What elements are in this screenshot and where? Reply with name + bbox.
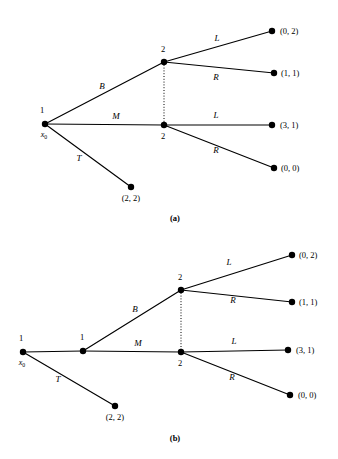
game-tree-diagram-a: 1x022BMTLRLR(0, 2)(1, 1)(3, 1)(0, 0)(2, … (0, 0, 338, 230)
panel-caption-b: (b) (170, 433, 181, 443)
node-terminal-31 (269, 122, 275, 128)
node-terminal-02 (289, 252, 295, 258)
player-label-root: 1 (19, 333, 23, 343)
action-label-L-lower: L (230, 336, 236, 346)
payoff-1-1: (1, 1) (299, 297, 318, 307)
edge-B (45, 62, 164, 124)
edge-lower-R (164, 125, 274, 168)
edge-T (45, 124, 131, 187)
player-label-p2-lower: 2 (178, 358, 182, 368)
action-label-B: B (99, 81, 105, 91)
payoff-0-0: (0, 0) (298, 390, 317, 400)
payoff-1-1: (1, 1) (281, 68, 300, 78)
action-label-R-upper: R (212, 72, 219, 82)
node-terminal-22 (112, 403, 118, 409)
payoff-2-2: (2, 2) (106, 412, 125, 422)
edge-lower-R (181, 352, 290, 395)
node-terminal-00 (271, 165, 277, 171)
payoff-0-0: (0, 0) (281, 163, 300, 173)
game-tree-diagram-b: 1x0122BMTLRLR(0, 2)(1, 1)(3, 1)(0, 0)(2,… (0, 230, 338, 459)
node-p1-second (80, 348, 86, 354)
game-tree-figure: 1x022BMTLRLR(0, 2)(1, 1)(3, 1)(0, 0)(2, … (0, 0, 338, 459)
action-label-M: M (133, 338, 142, 348)
game-tree-panel-a: 1x022BMTLRLR(0, 2)(1, 1)(3, 1)(0, 0)(2, … (0, 0, 338, 230)
action-label-L-upper: L (225, 257, 231, 267)
action-label-R-lower: R (228, 372, 235, 382)
node-terminal-31 (285, 347, 291, 353)
node-terminal-11 (271, 70, 277, 76)
player-label-p2-upper: 2 (161, 44, 165, 54)
edge-upper-R (164, 62, 274, 73)
payoff-0-2: (0, 2) (299, 250, 318, 260)
action-label-R-upper: R (229, 295, 236, 305)
action-label-M: M (111, 111, 120, 121)
node-terminal-02 (269, 28, 275, 34)
panel-caption-a: (a) (170, 213, 180, 223)
action-label-T: T (76, 153, 82, 163)
action-label-B: B (132, 304, 138, 314)
node-p2-upper (178, 287, 184, 293)
node-p2-lower (161, 122, 167, 128)
payoff-0-2: (0, 2) (280, 26, 299, 36)
action-label-L-upper: L (213, 33, 219, 43)
node-p2-lower (178, 349, 184, 355)
player-label-p2-upper: 2 (178, 272, 182, 282)
edge-B (83, 290, 181, 351)
edge-M (83, 351, 181, 352)
edge-root-to-p1 (23, 351, 83, 352)
edge-upper-R (181, 290, 292, 302)
root-node-label: x0 (18, 358, 26, 368)
player-label-root: 1 (40, 105, 44, 115)
edge-T (23, 352, 115, 406)
root-node-label: x0 (40, 130, 48, 140)
game-tree-panel-b: 1x0122BMTLRLR(0, 2)(1, 1)(3, 1)(0, 0)(2,… (0, 230, 338, 459)
action-label-R-lower: R (212, 145, 219, 155)
node-terminal-11 (289, 299, 295, 305)
edge-upper-L (181, 255, 292, 290)
player-label-p1-second: 1 (80, 332, 84, 342)
node-terminal-22 (128, 184, 134, 190)
payoff-2-2: (2, 2) (122, 193, 141, 203)
player-label-p2-lower: 2 (161, 131, 165, 141)
payoff-3-1: (3, 1) (280, 120, 299, 130)
node-root (20, 349, 26, 355)
edge-lower-L (181, 350, 288, 352)
node-root (42, 121, 48, 127)
action-label-T: T (55, 374, 61, 384)
node-terminal-00 (287, 392, 293, 398)
action-label-L-lower: L (212, 110, 218, 120)
node-p2-upper (161, 59, 167, 65)
payoff-3-1: (3, 1) (296, 345, 315, 355)
edge-M (45, 124, 164, 125)
